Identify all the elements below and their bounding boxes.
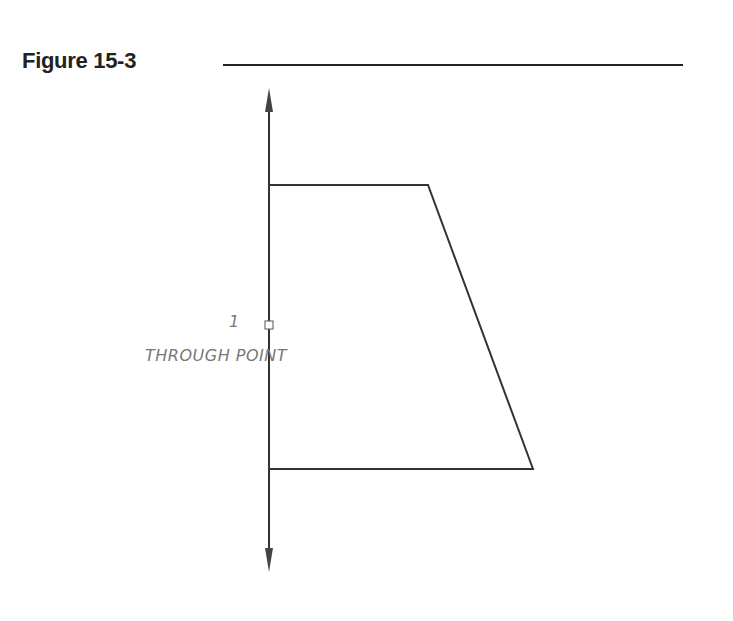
through-point-marker[interactable] <box>265 321 273 329</box>
vertical-axis-line <box>265 88 273 572</box>
arrow-down-icon <box>265 548 273 572</box>
point-number-label: 1 <box>229 312 239 331</box>
through-point-label: THROUGH POINT <box>145 346 287 365</box>
drawing-canvas <box>0 0 733 621</box>
arrow-up-icon <box>265 88 273 112</box>
trapezoid-shape <box>269 185 533 469</box>
